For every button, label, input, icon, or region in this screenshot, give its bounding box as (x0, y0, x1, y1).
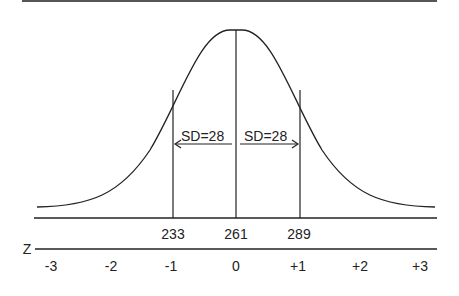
z-tick-label: -1 (165, 258, 177, 274)
z-tick-label: +1 (290, 258, 306, 274)
score-label: 289 (287, 226, 310, 242)
z-axis-label: Z (23, 241, 32, 257)
z-tick-label: 0 (232, 258, 240, 274)
z-tick-label: +3 (412, 258, 428, 274)
score-label: 261 (224, 226, 247, 242)
z-tick-label: -3 (45, 258, 57, 274)
z-tick-label: -2 (105, 258, 117, 274)
score-label: 233 (161, 226, 184, 242)
sd-label-right: SD=28 (244, 128, 287, 144)
bell-curve-diagram (0, 0, 459, 296)
z-tick-label: +2 (352, 258, 368, 274)
sd-label-left: SD=28 (181, 128, 224, 144)
